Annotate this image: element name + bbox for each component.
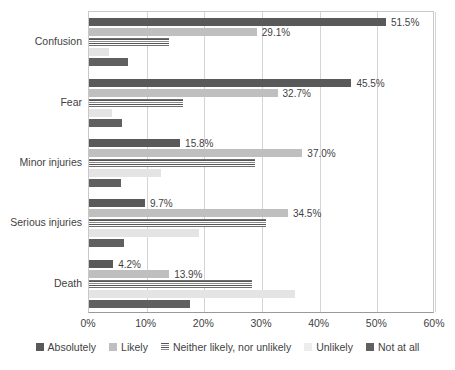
bar-value-label: 34.5% [288,208,321,219]
bar-likely[interactable] [89,209,288,217]
bar-slot [89,48,433,56]
gridline [435,12,436,312]
legend-label: Unlikely [316,341,353,353]
legend-swatch-icon [366,343,374,351]
legend-label: Not at all [378,341,419,353]
bar-unlikely[interactable] [89,229,199,237]
bar-unlikely[interactable] [89,48,109,56]
bar-slot [89,58,433,66]
legend-label: Neither likely, nor unlikely [173,341,291,353]
legend-item-neither-likely-nor-unlikely[interactable]: Neither likely, nor unlikely [161,341,291,353]
bar-slot: 37.0% [89,149,433,157]
bar-value-label: 15.8% [180,137,213,148]
bar-value-label: 37.0% [302,147,335,158]
bar-group: 51.5%29.1% [89,12,433,72]
bar-likely[interactable] [89,270,169,278]
bar-group: 45.5%32.7% [89,72,433,132]
bar-slot [89,119,433,127]
bar-slot [89,300,433,308]
bar-slot [89,219,433,227]
bar-slot: 29.1% [89,28,433,36]
bar-slot [89,109,433,117]
bar-slot: 45.5% [89,79,433,87]
x-axis-tick-20: 20% [193,317,214,329]
legend-item-likely[interactable]: Likely [109,341,148,353]
bar-absolutely[interactable] [89,199,145,207]
legend-swatch-icon [36,343,44,351]
bar-slot [89,239,433,247]
bar-slot: 32.7% [89,89,433,97]
bar-value-label: 32.7% [278,87,311,98]
bar-neither-likely-nor-unlikely[interactable] [89,99,183,107]
legend-swatch-icon [109,343,117,351]
bar-absolutely[interactable] [89,139,180,147]
y-axis-tick-death: Death [0,277,82,289]
bar-group: 15.8%37.0% [89,133,433,193]
bar-slot [89,290,433,298]
legend-label: Likely [121,341,148,353]
bar-slot: 9.7% [89,199,433,207]
bar-not-at-all[interactable] [89,239,124,247]
bar-likely[interactable] [89,89,278,97]
y-axis-tick-minor-injuries: Minor injuries [0,156,82,168]
bar-absolutely[interactable] [89,260,113,268]
x-axis-tick-60: 60% [423,317,444,329]
bar-unlikely[interactable] [89,169,161,177]
grouped-bar-chart: 51.5%29.1%45.5%32.7%15.8%37.0%9.7%34.5%4… [0,0,455,370]
x-axis-tick-40: 40% [308,317,329,329]
x-axis-tick-50: 50% [366,317,387,329]
y-axis-tick-confusion: Confusion [0,35,82,47]
x-axis-tick-10: 10% [135,317,156,329]
bar-group: 9.7%34.5% [89,193,433,253]
bar-slot: 34.5% [89,209,433,217]
bar-not-at-all[interactable] [89,179,121,187]
bar-neither-likely-nor-unlikely[interactable] [89,219,266,227]
x-axis-tick-30: 30% [250,317,271,329]
y-axis-tick-fear: Fear [0,96,82,108]
bar-slot [89,99,433,107]
bar-neither-likely-nor-unlikely[interactable] [89,159,255,167]
bar-slot [89,38,433,46]
legend-item-absolutely[interactable]: Absolutely [36,341,96,353]
x-axis-tick-0: 0% [80,317,95,329]
bar-likely[interactable] [89,149,302,157]
bar-absolutely[interactable] [89,18,386,26]
bar-not-at-all[interactable] [89,119,122,127]
bar-value-label: 45.5% [351,77,384,88]
bar-not-at-all[interactable] [89,300,190,308]
bar-slot [89,229,433,237]
bar-unlikely[interactable] [89,290,295,298]
bar-slot [89,179,433,187]
legend-label: Absolutely [48,341,96,353]
bar-absolutely[interactable] [89,79,351,87]
bar-neither-likely-nor-unlikely[interactable] [89,280,252,288]
plot-area: 51.5%29.1%45.5%32.7%15.8%37.0%9.7%34.5%4… [88,11,434,313]
bar-value-label: 13.9% [169,268,202,279]
bar-value-label: 51.5% [386,17,419,28]
bar-slot: 15.8% [89,139,433,147]
bar-slot: 4.2% [89,260,433,268]
bar-slot: 13.9% [89,270,433,278]
bar-value-label: 9.7% [145,198,173,209]
bar-slot [89,169,433,177]
legend-item-not-at-all[interactable]: Not at all [366,341,419,353]
legend-swatch-icon [161,343,169,351]
bar-group: 4.2%13.9% [89,254,433,314]
chart-legend: AbsolutelyLikelyNeither likely, nor unli… [0,341,455,353]
bar-neither-likely-nor-unlikely[interactable] [89,38,169,46]
bar-slot [89,159,433,167]
bar-value-label: 4.2% [113,258,141,269]
bar-likely[interactable] [89,28,257,36]
bar-value-label: 29.1% [257,27,290,38]
bar-not-at-all[interactable] [89,58,128,66]
y-axis-tick-serious-injuries: Serious injuries [0,216,82,228]
bar-slot: 51.5% [89,18,433,26]
bar-unlikely[interactable] [89,109,112,117]
legend-item-unlikely[interactable]: Unlikely [304,341,353,353]
bar-slot [89,280,433,288]
legend-swatch-icon [304,343,312,351]
